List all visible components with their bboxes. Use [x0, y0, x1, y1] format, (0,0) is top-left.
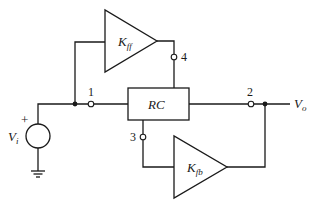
node-4-terminal: [171, 54, 177, 60]
voltage-source: + Vi: [8, 112, 50, 171]
node-3-label: 3: [130, 130, 136, 144]
ground-icon: [31, 171, 45, 177]
wire-output-to-kfb: [227, 104, 265, 167]
wire-node3-to-kfb: [143, 140, 174, 167]
node-2-terminal: [248, 101, 254, 107]
circuit-diagram: Kff RC Vo Kfb 1 2 3 4 + Vi: [0, 0, 314, 207]
source-label: Vi: [8, 129, 19, 146]
node-2-label: 2: [247, 85, 253, 99]
output-label: Vo: [294, 96, 307, 113]
node-4-label: 4: [181, 50, 187, 64]
wire-kff-to-node4: [157, 41, 174, 54]
node-1-label: 1: [88, 85, 94, 99]
kff-amplifier: Kff: [105, 10, 174, 88]
node-1-terminal: [88, 101, 94, 107]
source-circle: [26, 124, 50, 148]
input-junction-dot: [73, 102, 78, 107]
kfb-amplifier: Kfb: [143, 120, 227, 198]
rc-label: RC: [147, 97, 165, 112]
source-polarity: +: [21, 112, 28, 127]
rc-block: RC: [128, 88, 189, 120]
node-3-terminal: [140, 134, 146, 140]
wire-source-to-node1: [38, 104, 88, 124]
